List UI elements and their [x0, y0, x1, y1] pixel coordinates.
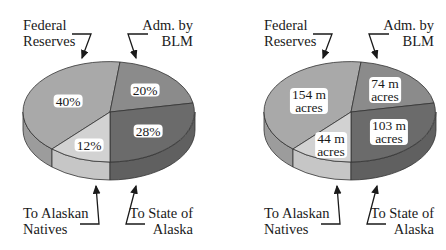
- label-alaskan-natives: To Alaskan Natives: [23, 205, 88, 237]
- label-line: BLM: [142, 33, 193, 49]
- label-state-alaska: To State of Alaska: [130, 205, 193, 237]
- value-blm: 74 m acres: [369, 77, 401, 103]
- value-line: acres: [372, 132, 406, 145]
- label-line: To Alaskan: [264, 205, 329, 221]
- label-line: Adm. by: [383, 17, 434, 33]
- label-line: Federal: [23, 17, 75, 33]
- label-line: Adm. by: [142, 17, 193, 33]
- label-line: Natives: [23, 221, 88, 237]
- label-line: To Alaskan: [23, 205, 88, 221]
- value-federal: 40%: [54, 95, 83, 108]
- label-line: To State of: [130, 205, 193, 221]
- label-federal-reserves: Federal Reserves: [264, 17, 316, 49]
- label-line: Reserves: [264, 33, 316, 49]
- value-line: acres: [292, 101, 326, 114]
- pie-chart-percent: Federal Reserves Adm. by BLM To Alaskan …: [0, 0, 223, 250]
- value-state: 103 m acres: [370, 119, 408, 145]
- pie-chart-acres: Federal Reserves Adm. by BLM To Alaskan …: [223, 0, 446, 250]
- label-adm-blm: Adm. by BLM: [142, 17, 193, 49]
- label-line: Alaska: [371, 221, 434, 237]
- label-line: Reserves: [23, 33, 75, 49]
- value-line: acres: [371, 90, 399, 103]
- label-line: Federal: [264, 17, 316, 33]
- value-blm: 20%: [131, 84, 160, 97]
- value-federal: 154 m acres: [290, 88, 328, 114]
- value-natives: 44 m acres: [315, 132, 347, 158]
- label-line: Alaska: [130, 221, 193, 237]
- label-line: To State of: [371, 205, 434, 221]
- label-state-alaska: To State of Alaska: [371, 205, 434, 237]
- value-natives: 12%: [75, 139, 104, 152]
- label-line: BLM: [383, 33, 434, 49]
- label-federal-reserves: Federal Reserves: [23, 17, 75, 49]
- label-line: Natives: [264, 221, 329, 237]
- label-alaskan-natives: To Alaskan Natives: [264, 205, 329, 237]
- value-state: 28%: [134, 125, 163, 138]
- label-adm-blm: Adm. by BLM: [383, 17, 434, 49]
- value-line: acres: [317, 145, 345, 158]
